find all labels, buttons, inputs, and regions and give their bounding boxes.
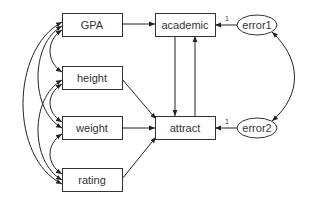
cov-gpa-height bbox=[50, 30, 62, 72]
node-attract-label: attract bbox=[170, 122, 201, 134]
node-error1[interactable]: error1 bbox=[237, 15, 277, 35]
cov-error1-error2 bbox=[272, 32, 295, 121]
node-gpa-label: GPA bbox=[81, 19, 104, 31]
node-attract[interactable]: attract bbox=[156, 117, 216, 140]
node-error2-label: error2 bbox=[242, 122, 271, 134]
path-diagram: 1 1 GPA height weight rating academic at… bbox=[0, 0, 314, 205]
cov-gpa-weight bbox=[38, 26, 62, 128]
weight-label-error2: 1 bbox=[225, 118, 229, 125]
node-gpa[interactable]: GPA bbox=[63, 14, 123, 37]
path-height-attract bbox=[122, 79, 156, 119]
weight-label-error1: 1 bbox=[225, 15, 229, 22]
cov-height-weight bbox=[50, 84, 62, 122]
node-academic[interactable]: academic bbox=[156, 14, 216, 37]
node-academic-label: academic bbox=[161, 19, 209, 31]
node-weight[interactable]: weight bbox=[63, 117, 123, 140]
node-height-label: height bbox=[77, 72, 107, 84]
node-error2[interactable]: error2 bbox=[237, 118, 277, 138]
node-weight-label: weight bbox=[75, 122, 108, 134]
covariance-arrows-left bbox=[23, 22, 62, 184]
node-error1-label: error1 bbox=[242, 19, 271, 31]
cov-weight-rating bbox=[50, 134, 62, 174]
node-rating[interactable]: rating bbox=[63, 169, 123, 192]
path-rating-attract bbox=[122, 137, 156, 179]
node-rating-label: rating bbox=[78, 174, 106, 186]
regression-arrows bbox=[122, 24, 237, 179]
node-height[interactable]: height bbox=[63, 67, 123, 90]
cov-height-rating bbox=[38, 80, 62, 180]
